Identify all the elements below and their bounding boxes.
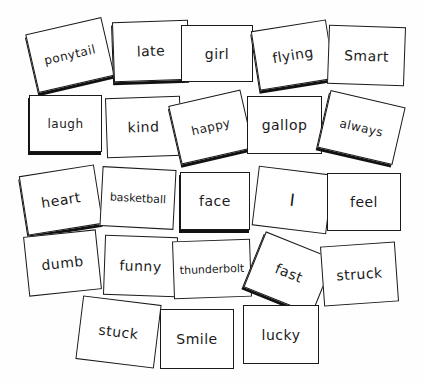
- card-word: funny: [119, 257, 162, 274]
- card-word: flying: [271, 44, 315, 66]
- card-word: lucky: [262, 327, 301, 343]
- card-word: feel: [350, 194, 378, 210]
- card-word: laugh: [47, 117, 83, 131]
- word-card-funny[interactable]: funny: [103, 235, 178, 298]
- word-card-always[interactable]: always: [317, 90, 405, 165]
- card-word: ponytail: [43, 42, 97, 67]
- word-card-late[interactable]: late: [112, 20, 190, 83]
- card-word: fast: [273, 260, 305, 285]
- word-card-thunderbolt[interactable]: thunderbolt: [172, 239, 252, 300]
- card-word: happy: [190, 116, 232, 139]
- card-word: Smile: [176, 331, 217, 347]
- word-card-struck[interactable]: struck: [320, 241, 399, 306]
- word-card-lucky[interactable]: lucky: [243, 305, 319, 364]
- card-word: I: [289, 190, 297, 211]
- card-word: gallop: [262, 117, 308, 133]
- word-card-heart[interactable]: heart: [19, 164, 103, 235]
- word-card-basketball[interactable]: basketball: [99, 166, 176, 230]
- card-word: kind: [127, 118, 159, 135]
- word-card-happy[interactable]: happy: [168, 89, 254, 164]
- card-word: late: [136, 43, 165, 60]
- card-word: stuck: [98, 322, 140, 343]
- word-card-board: ponytaillategirlflyingSmartlaughkindhapp…: [0, 0, 425, 384]
- card-word: dumb: [41, 253, 85, 273]
- word-card-girl[interactable]: girl: [181, 25, 253, 82]
- word-card-stuck[interactable]: stuck: [75, 295, 161, 368]
- card-word: girl: [205, 46, 229, 62]
- card-word: basketball: [110, 190, 167, 206]
- card-word: struck: [336, 264, 383, 283]
- card-word: heart: [40, 189, 82, 211]
- word-card-laugh[interactable]: laugh: [29, 95, 102, 152]
- word-card-dumb[interactable]: dumb: [23, 229, 102, 296]
- word-card-smart[interactable]: Smart: [327, 25, 406, 87]
- word-card-gallop[interactable]: gallop: [247, 96, 322, 154]
- word-card-flying[interactable]: flying: [251, 19, 335, 90]
- word-card-feel[interactable]: feel: [327, 173, 401, 231]
- card-word: face: [199, 193, 231, 209]
- word-card-smile[interactable]: Smile: [160, 309, 234, 369]
- word-card-face[interactable]: face: [180, 172, 250, 230]
- card-word: thunderbolt: [179, 261, 244, 276]
- card-word: Smart: [344, 47, 389, 65]
- card-word: always: [338, 116, 384, 140]
- word-card-i[interactable]: I: [252, 166, 334, 235]
- word-card-ponytail[interactable]: ponytail: [25, 17, 114, 93]
